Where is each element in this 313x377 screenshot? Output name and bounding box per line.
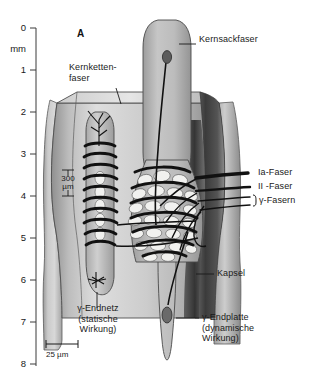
axis-unit-label: mm <box>6 43 26 54</box>
label-gamma-fasern: γ-Fasern <box>259 195 295 206</box>
gamma-endplate-marker <box>162 307 172 323</box>
inner-scale-unit: µm <box>54 183 82 192</box>
label-gamma-endnetz: γ-Endnetz (statische Wirkung) <box>60 303 136 335</box>
axis-tick-1: 1 <box>10 64 26 75</box>
axis-tick-3: 3 <box>10 148 26 159</box>
axis-tick-4: 4 <box>10 190 26 201</box>
axis-tick-2: 2 <box>10 106 26 117</box>
label-kernkettenfaser: Kernketten- faser <box>69 62 117 83</box>
axis-tick-0: 0 <box>10 22 26 33</box>
panel-letter: A <box>77 28 84 39</box>
label-gamma-endplatte: γ-Endplatte (dynamische Wirkung) <box>202 312 254 344</box>
label-ia-faser: Ia-Faser <box>258 167 292 178</box>
label-kernsackfaser: Kernsackfaser <box>199 34 258 45</box>
axis-tick-8: 8 <box>10 358 26 369</box>
axis-tick-6: 6 <box>10 274 26 285</box>
axis-tick-7: 7 <box>10 316 26 327</box>
muscle-spindle-figure: A 0 mm 1 2 3 4 5 6 7 8 300 µm 25 µm Kern… <box>0 0 313 377</box>
scale-bar-label: 25 µm <box>46 350 68 359</box>
label-kapsel: Kapsel <box>217 268 245 279</box>
mm-axis <box>30 28 36 366</box>
axis-tick-5: 5 <box>10 232 26 243</box>
bag-nucleus-pole-top <box>162 51 171 64</box>
label-ii-faser: II -Faser <box>258 181 292 192</box>
gamma-brace <box>253 195 256 206</box>
